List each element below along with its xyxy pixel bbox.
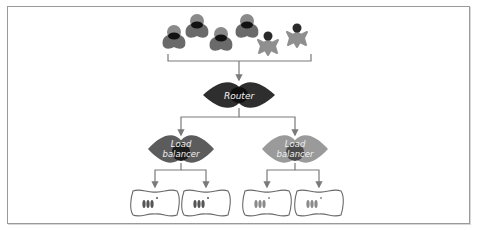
network-diagram: Router Load balancer Load balancer: [0, 0, 477, 231]
server-node[interactable]: [131, 190, 180, 216]
balancer-1-to-servers: [155, 163, 181, 187]
server-process-icon: [258, 200, 261, 208]
router-to-balancers-line: [181, 108, 239, 135]
server-process-icon: [142, 200, 145, 208]
user-icon: [236, 14, 259, 38]
server-outline: [182, 190, 231, 216]
server-process-icon: [314, 200, 317, 208]
balancer-1-to-server-2: [181, 170, 206, 187]
connectors: [155, 54, 319, 187]
server-process-icon: [201, 200, 204, 208]
server-process-icon: [146, 200, 149, 208]
server-outline: [131, 190, 180, 216]
router-node[interactable]: Router: [203, 82, 275, 108]
server-process-icon: [254, 200, 257, 208]
load-balancer-1[interactable]: Load balancer: [148, 135, 214, 162]
balancer-2-to-server-2: [295, 170, 319, 187]
load-balancer-label-line2: balancer: [277, 149, 314, 159]
server-dot-icon: [320, 197, 322, 199]
user-face: [215, 35, 227, 42]
server-dot-icon: [268, 197, 270, 199]
server-outline: [243, 190, 292, 216]
server-process-icon: [306, 200, 309, 208]
load-balancer-label-line1: Load: [171, 139, 192, 149]
server-node[interactable]: [243, 190, 292, 216]
load-balancer-label-line2: balancer: [163, 149, 200, 159]
load-balancer-2[interactable]: Load balancer: [262, 135, 328, 162]
user-icon: [186, 14, 209, 38]
user-icon: [163, 25, 186, 49]
server-node[interactable]: [182, 190, 231, 216]
user-icon: [210, 27, 233, 51]
server-process-icon: [193, 200, 196, 208]
server-process-icon: [310, 200, 313, 208]
mobile-user-body: [258, 40, 278, 55]
user-face: [191, 22, 203, 29]
server-node[interactable]: [295, 190, 344, 216]
clients-bracket: [168, 54, 311, 61]
server-process-icon: [197, 200, 200, 208]
mobile-user-icon: [287, 24, 307, 48]
mobile-user-head: [264, 32, 273, 41]
mobile-user-icon: [258, 32, 278, 56]
balancer-2-to-servers: [267, 163, 295, 187]
server-dot-icon: [156, 197, 158, 199]
router-label: Router: [224, 91, 256, 101]
load-balancer-label-line1: Load: [285, 139, 306, 149]
server-process-icon: [262, 200, 265, 208]
server-outline: [295, 190, 344, 216]
servers-group: [131, 190, 344, 216]
router-to-balancer-2-arrow: [239, 117, 295, 135]
server-dot-icon: [207, 197, 209, 199]
mobile-user-head: [293, 24, 302, 33]
clients-group: [163, 14, 307, 55]
mobile-user-body: [287, 32, 307, 47]
user-face: [241, 22, 253, 29]
server-process-icon: [150, 200, 153, 208]
user-face: [168, 33, 180, 40]
